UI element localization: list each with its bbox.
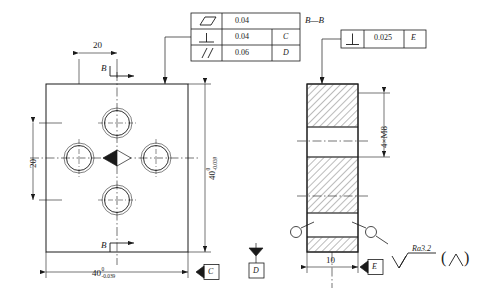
parallelism-icon: [202, 48, 213, 58]
section-hatching: [308, 85, 358, 252]
gdt-tolerance-row3: 0.06: [235, 49, 249, 57]
dim-right-40-group: 400-0.039: [201, 171, 219, 180]
datum-e-label: E: [372, 263, 377, 271]
section-mark-top: [110, 66, 134, 76]
drawing-canvas: [0, 0, 483, 302]
dim-bottom-40-lower: -0.039: [101, 274, 115, 279]
dim-left-20-label: 20: [29, 159, 38, 168]
section-datum: E: [411, 34, 416, 42]
gdt-datum-row2: C: [283, 33, 288, 41]
section-mark-bottom-label: B: [101, 241, 107, 250]
dim-top-20: [79, 53, 117, 84]
dim-10-label: 10: [326, 256, 335, 265]
gdt-leader-line: [165, 37, 191, 84]
section-gdt-leader: [322, 39, 341, 84]
centre-lines: [30, 72, 200, 265]
datum-c-label: C: [208, 268, 213, 276]
section-mark-bottom: [110, 243, 134, 252]
dim-right-40-value: 40: [207, 171, 217, 180]
section-label-bb: B—B: [305, 16, 324, 25]
dim-right-40-upper: 0: [206, 168, 211, 171]
perpendicularity-icon: [199, 33, 214, 42]
dim-top-20-label: 20: [93, 41, 102, 50]
surface-finish-tick-left: [291, 222, 315, 238]
gdt-tolerance-row2: 0.04: [235, 33, 249, 41]
gdt-datum-row3: D: [283, 49, 289, 57]
surface-finish-bracket-open: (: [441, 250, 446, 266]
thread-callout-label: 4×M8: [380, 126, 389, 148]
engineering-drawing-sheet: 0.04 0.04 0.06 C D B—B 0.025 E 20 20 400…: [0, 0, 483, 302]
perpendicularity-icon: [346, 34, 359, 45]
gdt-tolerance-row1: 0.04: [235, 17, 249, 25]
dim-bottom-40-value: 40: [92, 268, 101, 278]
datum-d-label: D: [253, 267, 259, 275]
surface-finish-basic-symbol: [449, 254, 463, 266]
flatness-parallelogram-icon: [200, 17, 216, 25]
surface-finish-value: Ra3.2: [412, 245, 431, 253]
section-tolerance: 0.025: [374, 34, 392, 42]
dim-bottom-40-upper: 0: [101, 267, 104, 272]
section-mark-top-label: B: [101, 64, 107, 73]
surface-finish-note-symbol: [392, 253, 436, 268]
centre-datum-arrow: [103, 150, 131, 166]
dim-bottom-40-group: 400-0.039: [92, 262, 101, 280]
surface-finish-bracket-close: ): [464, 250, 469, 266]
dim-right-40-lower: -0.039: [213, 157, 218, 171]
